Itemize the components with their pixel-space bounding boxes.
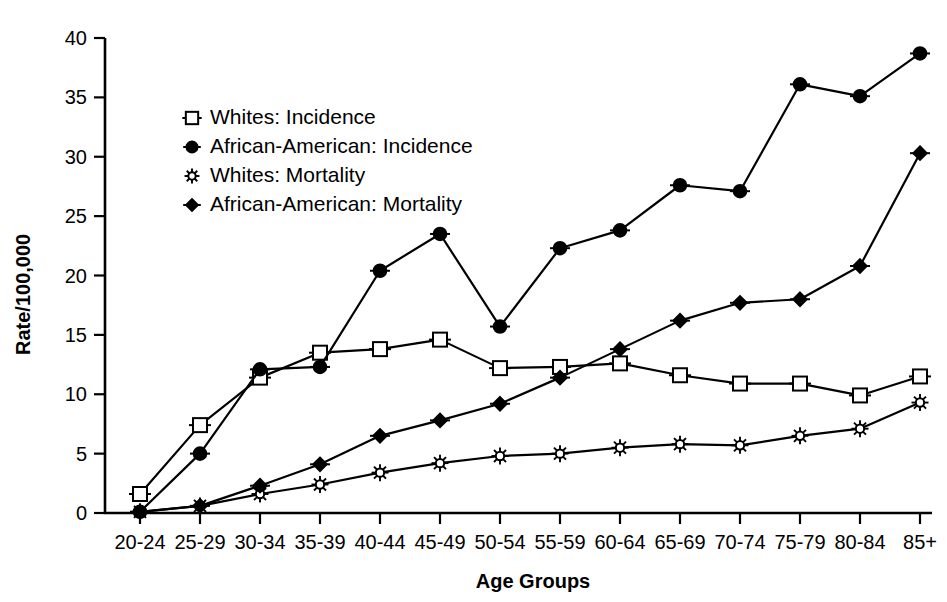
x-tick-label: 60-64 (594, 531, 645, 553)
y-tick-label: 35 (65, 86, 87, 108)
data-point-open-star (672, 436, 689, 453)
data-point-open-square (182, 112, 201, 124)
y-tick-label: 5 (76, 443, 87, 465)
legend-label: Whites: Incidence (210, 105, 376, 128)
x-tick-label: 80-84 (834, 531, 885, 553)
data-point-open-square (369, 342, 391, 356)
data-point-open-square (609, 356, 631, 370)
data-point-open-star (732, 437, 749, 454)
y-tick-label: 20 (65, 265, 87, 287)
data-point-open-square (189, 418, 211, 432)
legend-item: African-American: Incidence (183, 134, 472, 157)
legend-item: Whites: Incidence (182, 105, 375, 128)
data-point-open-star (372, 464, 389, 481)
data-point-open-star (552, 445, 569, 462)
data-point-open-star (312, 476, 329, 493)
y-tick-label: 30 (65, 146, 87, 168)
data-point-open-square (909, 369, 931, 383)
data-point-open-star (432, 455, 449, 472)
line-chart: 0510152025303540 20-2425-2930-3435-3940-… (0, 0, 947, 602)
x-tick-label: 30-34 (234, 531, 285, 553)
legend-item: African-American: Mortality (183, 192, 462, 215)
y-tick-label: 0 (76, 502, 87, 524)
legend-label: African-American: Incidence (210, 134, 473, 157)
data-point-open-star (492, 448, 509, 465)
x-tick-label: 85+ (903, 531, 937, 553)
x-tick-label: 25-29 (174, 531, 225, 553)
x-tick-label: 45-49 (414, 531, 465, 553)
x-tick-label: 50-54 (474, 531, 525, 553)
y-tick-label: 10 (65, 383, 87, 405)
data-point-open-square (729, 377, 751, 391)
data-point-open-star (852, 420, 869, 437)
x-tick-label: 55-59 (534, 531, 585, 553)
x-tick-label: 75-79 (774, 531, 825, 553)
data-point-open-square (849, 388, 871, 402)
x-tick-label: 70-74 (714, 531, 765, 553)
x-tick-label: 65-69 (654, 531, 705, 553)
legend-label: Whites: Mortality (210, 163, 366, 186)
data-point-open-square (429, 333, 451, 347)
data-point-open-star (792, 427, 809, 444)
data-point-open-square (129, 487, 151, 501)
legend-item: Whites: Mortality (185, 163, 366, 186)
data-point-open-square (669, 368, 691, 382)
data-point-open-star (185, 169, 200, 184)
y-tick-label: 15 (65, 324, 87, 346)
data-point-open-square (789, 377, 811, 391)
x-tick-label: 35-39 (294, 531, 345, 553)
y-tick-label: 25 (65, 205, 87, 227)
legend-label: African-American: Mortality (210, 192, 463, 215)
x-tick-label: 40-44 (354, 531, 405, 553)
y-tick-label: 40 (65, 27, 87, 49)
x-tick-label: 20-24 (114, 531, 165, 553)
data-point-open-square (489, 361, 511, 375)
chart-container: 0510152025303540 20-2425-2930-3435-3940-… (0, 0, 947, 602)
data-point-open-star (912, 394, 929, 411)
x-axis-title: Age Groups (476, 570, 590, 592)
y-axis-title: Rate/100,000 (12, 234, 34, 355)
data-point-open-star (612, 439, 629, 456)
